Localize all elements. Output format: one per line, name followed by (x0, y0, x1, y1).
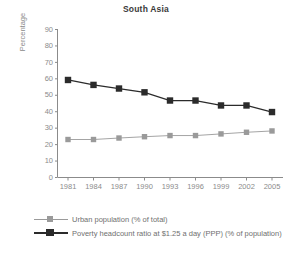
data-point-marker (218, 131, 223, 136)
data-point-marker (141, 89, 147, 95)
x-tick-label: 1996 (187, 182, 204, 191)
data-point-marker (90, 82, 96, 88)
data-series-group (65, 77, 275, 142)
series-line (68, 80, 272, 112)
data-point-marker (65, 137, 70, 142)
data-point-marker (116, 85, 122, 91)
legend-marker-urban (34, 213, 68, 225)
data-point-marker (193, 133, 198, 138)
x-tick-label: 1990 (136, 182, 153, 191)
x-tick-label: 1981 (60, 182, 77, 191)
legend-item-poverty: Poverty headcount ratio at $1.25 a day (… (34, 226, 292, 240)
series-urban (65, 128, 274, 142)
data-point-marker (142, 134, 147, 139)
y-tick-label: 80 (45, 41, 53, 50)
data-point-marker (116, 135, 121, 140)
data-point-marker (167, 97, 173, 103)
data-point-marker (91, 137, 96, 142)
x-tick-label: 1999 (213, 182, 230, 191)
y-tick-label: 50 (45, 90, 53, 99)
x-tick-label: 2005 (264, 182, 281, 191)
x-tick-label: 1987 (111, 182, 128, 191)
legend-item-urban: Urban population (% of total) (34, 212, 292, 226)
data-point-marker (167, 133, 172, 138)
y-tick-label: 30 (45, 123, 53, 132)
data-point-marker (192, 97, 198, 103)
legend-label-urban: Urban population (% of total) (68, 215, 167, 224)
y-tick-label: 20 (45, 140, 53, 149)
y-tick-label: 60 (45, 74, 53, 83)
x-tick-label: 1993 (162, 182, 179, 191)
legend-marker-poverty (34, 227, 68, 239)
series-poverty (65, 77, 275, 115)
data-point-marker (269, 109, 275, 115)
x-tick-label: 1984 (85, 182, 102, 191)
y-tick-label: 10 (45, 156, 53, 165)
data-point-marker (218, 102, 224, 108)
y-tick-label: 0 (49, 173, 53, 182)
data-point-marker (269, 128, 274, 133)
chart-legend: Urban population (% of total) Poverty he… (34, 212, 292, 240)
data-point-marker (244, 130, 249, 135)
y-axis-tick-labels: 0102030405060708090 (45, 25, 53, 182)
data-point-marker (243, 102, 249, 108)
y-tick-label: 90 (45, 25, 53, 34)
x-tick-label: 2002 (238, 182, 255, 191)
y-tick-label: 40 (45, 107, 53, 116)
x-axis-tick-labels: 198119841987199019931996199920022005 (60, 182, 281, 191)
chart-container: South Asia Percentage 010203040506070809… (0, 0, 292, 257)
plot-area: 0102030405060708090 19811984198719901993… (0, 0, 292, 200)
data-point-marker (65, 77, 71, 83)
y-tick-label: 70 (45, 58, 53, 67)
legend-label-poverty: Poverty headcount ratio at $1.25 a day (… (68, 229, 282, 238)
